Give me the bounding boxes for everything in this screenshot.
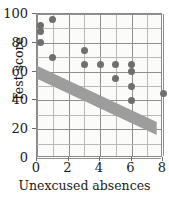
y-axis-tick [32, 13, 36, 14]
data-point [37, 28, 44, 35]
x-axis-tick-label: 2 [63, 161, 71, 174]
y-axis-label: Test score [13, 4, 26, 134]
data-point [160, 90, 167, 97]
x-axis-tick-label: 0 [32, 161, 40, 174]
y-axis-tick [32, 42, 36, 43]
y-axis-tick [32, 128, 36, 129]
data-point [128, 83, 135, 90]
x-axis-tick-label: 6 [126, 161, 134, 174]
x-axis-tick-label: 8 [158, 161, 166, 174]
data-point [128, 61, 135, 68]
data-point [81, 47, 88, 54]
y-axis-tick-label: 0 [0, 151, 28, 164]
trend-band-shape [37, 14, 161, 156]
data-point [81, 61, 88, 68]
data-point [49, 54, 56, 61]
trend-band-polygon [37, 66, 157, 135]
trend-band [37, 14, 161, 156]
data-point [128, 97, 135, 104]
x-axis-label: Unexcused absences [0, 180, 169, 193]
x-axis-tick-label: 4 [95, 161, 103, 174]
scatter-plot-figure: 02468020406080100 Unexcused absences Tes… [0, 0, 169, 201]
data-point [97, 61, 104, 68]
y-axis-tick [32, 71, 36, 72]
y-axis-tick [32, 99, 36, 100]
data-point [37, 39, 44, 46]
plot-area [36, 13, 162, 157]
gridline-vertical [163, 14, 164, 156]
